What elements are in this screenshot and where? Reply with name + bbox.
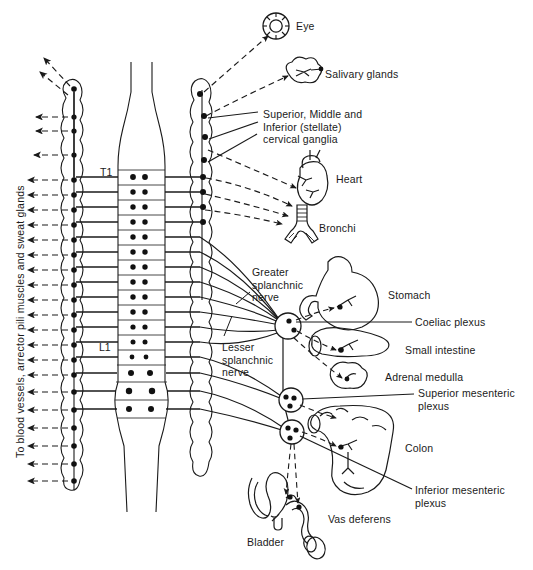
nerve-label-lesser-splanchnic: Lesser splanchnic nerve — [222, 341, 273, 379]
inferior-mesenteric-plexus-node — [280, 420, 304, 444]
organ-label-small-intestine: Small intestine — [405, 344, 476, 357]
organ-label-bronchi: Bronchi — [319, 222, 356, 235]
organ-label-vas-deferens: Vas deferens — [328, 513, 391, 526]
organ-label-eye: Eye — [296, 20, 315, 33]
organ-label-superior-mesenteric-plexus: Superior mesenteric plexus — [418, 387, 515, 412]
organ-label-colon: Colon — [405, 442, 433, 455]
diagram-canvas: To blood vessels, arrector pili muscles … — [0, 0, 533, 570]
nerve-leader-lines — [224, 292, 250, 336]
spinal-level-t1: T1 — [100, 166, 112, 178]
organ-label-adrenal-medulla: Adrenal medulla — [385, 371, 463, 384]
spinal-cord — [115, 62, 168, 512]
organ-label-coeliac-plexus: Coeliac plexus — [415, 316, 485, 329]
organ-label-bladder: Bladder — [247, 536, 284, 549]
vas-deferens-icon — [286, 501, 328, 561]
nerve-label-greater-splanchnic: Greater splanchnic nerve — [252, 266, 303, 304]
cervical-ganglia-leaders — [208, 112, 258, 162]
heart-icon — [297, 150, 327, 205]
peripheral-target-label: To blood vessels, arrector pili muscles … — [14, 185, 26, 458]
bronchi-icon — [285, 205, 318, 243]
cord-segments — [115, 170, 168, 418]
lateral-horn-cells — [126, 174, 155, 412]
organ-label-inferior-mesenteric-plexus: Inferior mesenteric plexus — [415, 484, 505, 509]
adrenal-medulla-icon — [330, 362, 367, 388]
bladder-icon — [248, 473, 296, 530]
colon-icon — [308, 406, 394, 495]
organ-label-cervical-ganglia: Superior, Middle and Inferior (stellate)… — [263, 108, 362, 146]
right-sympathetic-chain — [190, 79, 212, 477]
right-rami — [165, 177, 202, 409]
organ-label-salivary-glands: Salivary glands — [325, 68, 398, 81]
organ-label-heart: Heart — [336, 173, 362, 186]
small-intestine-icon — [309, 328, 389, 357]
spinal-level-l1: L1 — [99, 341, 111, 353]
salivary-glands-icon — [286, 57, 323, 83]
coeliac-plexus-node — [275, 313, 301, 339]
eye-icon — [263, 13, 289, 39]
stomach-icon — [300, 257, 379, 330]
organ-label-stomach: Stomach — [388, 289, 431, 302]
